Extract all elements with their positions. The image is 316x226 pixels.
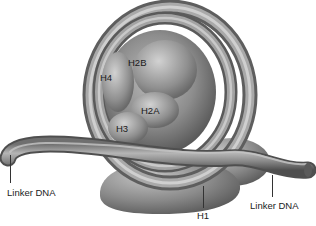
h3-label: H3: [116, 124, 128, 134]
linker-dna-right-leader: [272, 175, 273, 197]
h1-label: H1: [197, 211, 209, 221]
linker-dna-right-label: Linker DNA: [250, 201, 299, 211]
linker-dna-left-leader: [10, 155, 11, 183]
h1-leader: [203, 186, 204, 208]
h4-label: H4: [100, 73, 112, 83]
h2a-label: H2A: [141, 106, 159, 116]
h2b-label: H2B: [128, 58, 146, 68]
linker-dna-left-label: Linker DNA: [7, 188, 56, 198]
nucleosome-diagram: H2B H4 H2A H3 Linker DNA H1 Linker DNA: [0, 0, 316, 226]
h2b-blob: [133, 40, 197, 100]
